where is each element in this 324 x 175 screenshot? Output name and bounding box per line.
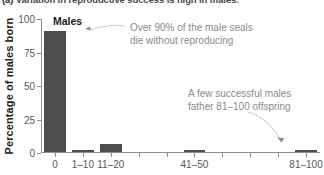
x-tick-mark-8 bbox=[278, 153, 279, 157]
annotation-high-mortality-line2: die without reproducing bbox=[130, 35, 253, 48]
x-tick-mark-4 bbox=[167, 153, 168, 157]
y-tick-mark bbox=[37, 86, 41, 87]
y-axis-line bbox=[41, 19, 42, 153]
annotation-high-mortality: Over 90% of the male seals die without r… bbox=[130, 22, 253, 47]
x-tick-mark-6 bbox=[222, 153, 223, 157]
x-tick-label-1: 1–10 bbox=[72, 159, 94, 170]
y-tick-mark bbox=[37, 53, 41, 54]
x-tick-label-9: 81–100 bbox=[289, 159, 322, 170]
bar-11–20 bbox=[100, 144, 122, 152]
x-tick-mark-9 bbox=[306, 153, 307, 157]
x-tick-mark-7 bbox=[250, 153, 251, 157]
x-tick-mark-5 bbox=[194, 153, 195, 157]
x-tick-mark-0 bbox=[55, 153, 56, 157]
y-tick-mark bbox=[37, 120, 41, 121]
bar-1–10 bbox=[72, 150, 94, 152]
annotation-successful-males-line1: A few successful males bbox=[188, 88, 291, 101]
y-tick-mark bbox=[37, 153, 41, 154]
bar-81–100 bbox=[295, 150, 317, 152]
y-tick-label: 25 bbox=[24, 114, 35, 125]
figure-root: (a) Variation in reproductive success is… bbox=[0, 0, 324, 175]
y-tick-label: 50 bbox=[24, 81, 35, 92]
caption-letter: (a) bbox=[2, 0, 13, 5]
panel-label: Males bbox=[53, 15, 82, 27]
x-tick-mark-2 bbox=[111, 153, 112, 157]
annotation-successful-males-line2: father 81–100 offspring bbox=[188, 101, 291, 114]
bar-41–50 bbox=[184, 150, 206, 152]
y-axis-title: Percentage of males born bbox=[3, 18, 15, 155]
y-tick-mark bbox=[37, 19, 41, 20]
bar-0 bbox=[44, 31, 66, 152]
x-tick-mark-1 bbox=[83, 153, 84, 157]
x-tick-label-5: 41–50 bbox=[181, 159, 209, 170]
x-tick-mark-3 bbox=[139, 153, 140, 157]
figure-caption: (a) Variation in reproductive success is… bbox=[2, 0, 322, 6]
annotation-successful-males: A few successful males father 81–100 off… bbox=[188, 88, 291, 113]
x-tick-label-2: 11–20 bbox=[97, 159, 124, 170]
caption-text: Variation in reproductive success is hig… bbox=[16, 0, 239, 5]
annotation-high-mortality-line1: Over 90% of the male seals bbox=[130, 22, 253, 35]
x-tick-label-0: 0 bbox=[52, 159, 58, 170]
y-axis-title-container: Percentage of males born bbox=[10, 19, 24, 153]
y-tick-label: 100 bbox=[18, 14, 35, 25]
y-tick-label: 75 bbox=[24, 47, 35, 58]
y-tick-label: 0 bbox=[29, 148, 35, 159]
